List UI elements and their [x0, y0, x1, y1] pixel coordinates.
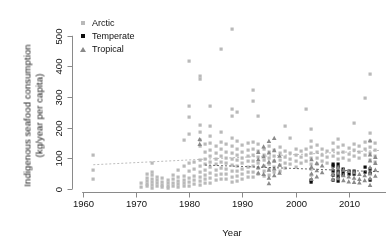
- legend-item-arctic: Arctic: [78, 17, 135, 29]
- x-axis-title: Year: [72, 227, 392, 238]
- legend-label-temperate: Temperate: [92, 31, 135, 41]
- temperate-square-icon: [78, 34, 87, 38]
- plot-area: [0, 0, 392, 247]
- y-axis-title-line2: (kg/year per capita): [33, 74, 44, 158]
- legend-item-temperate: Temperate: [78, 30, 135, 42]
- legend-label-tropical: Tropical: [92, 44, 124, 54]
- tropical-triangle-icon: [78, 47, 87, 52]
- chart-legend: Arctic Temperate Tropical: [78, 17, 135, 56]
- legend-item-tropical: Tropical: [78, 43, 135, 55]
- arctic-square-icon: [78, 21, 87, 25]
- y-axis-title-line1: Indigenous seafood consumption: [22, 44, 33, 186]
- y-axis-title: Indigenous seafood consumption (kg/year …: [22, 36, 45, 196]
- scatter-chart-figure: Arctic Temperate Tropical Indigenous sea…: [0, 0, 392, 247]
- legend-label-arctic: Arctic: [92, 18, 115, 28]
